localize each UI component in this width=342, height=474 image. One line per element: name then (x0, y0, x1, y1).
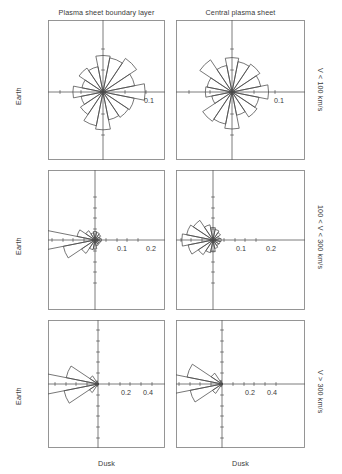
column-title-psbl: Plasma sheet boundary layer (48, 8, 165, 17)
axis-label-earth-row1: Earth (14, 87, 23, 105)
column-title-cps: Central plasma sheet (176, 8, 305, 17)
tick-label-row2-col2-1: 0.2 (266, 244, 276, 253)
rose-panel-row3-col1: 0.20.4 (48, 320, 165, 448)
axis-label-earth-row3: Earth (14, 387, 23, 405)
axis-label-dusk-col2: Dusk (176, 459, 305, 468)
rose-panel-row1-col1: 0.1 (48, 20, 165, 160)
tick-label-row3-col1-1: 0.4 (143, 388, 153, 397)
axis-label-dusk-col1: Dusk (48, 459, 165, 468)
rose-diagram-figure: Plasma sheet boundary layer Central plas… (0, 0, 342, 474)
rose-panel-row1-col2: 0.1 (176, 20, 305, 160)
rose-panel-row2-col2: 0.10.2 (176, 170, 305, 310)
row-label-velocity-mid: 100 < V < 300 km/s (316, 205, 325, 269)
tick-label-row2-col2-0: 0.1 (236, 244, 246, 253)
tick-label-row3-col1-0: 0.2 (121, 388, 131, 397)
tick-label-row3-col2-0: 0.2 (245, 388, 255, 397)
tick-label-row2-col1-0: 0.1 (117, 244, 127, 253)
rose-panel-row2-col1: 0.10.2 (48, 170, 165, 310)
tick-label-row2-col1-1: 0.2 (146, 244, 156, 253)
row-label-velocity-low: V < 100 km/s (316, 68, 325, 111)
tick-label-row1-col1-0: 0.1 (144, 96, 154, 105)
axis-label-earth-row2: Earth (14, 237, 23, 255)
rose-panel-row3-col2: 0.20.4 (176, 320, 305, 448)
tick-label-row1-col2-0: 0.1 (274, 96, 284, 105)
tick-label-row3-col2-1: 0.4 (267, 388, 277, 397)
row-label-velocity-high: V > 300 km/s (316, 370, 325, 413)
